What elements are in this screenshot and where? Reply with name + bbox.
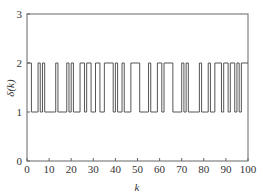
x-tick-label: 60: [154, 163, 166, 175]
y-tick-label: 0: [17, 155, 23, 167]
x-axis-label: k: [135, 181, 141, 193]
y-axis-label: δ(k): [4, 79, 17, 97]
y-axis-ticks: 0123: [17, 8, 31, 167]
y-tick-label: 3: [17, 8, 23, 20]
step-chart: 0102030405060708090100 0123 k δ(k): [0, 0, 263, 195]
x-tick-label: 10: [44, 163, 56, 175]
x-tick-label: 40: [110, 163, 122, 175]
y-tick-label: 1: [17, 106, 23, 118]
x-tick-label: 0: [24, 163, 30, 175]
y-tick-label: 2: [17, 57, 23, 69]
x-tick-label: 50: [132, 163, 144, 175]
x-tick-label: 80: [198, 163, 210, 175]
series-delta-k: [27, 63, 248, 112]
x-tick-label: 70: [176, 163, 188, 175]
x-tick-label: 90: [220, 163, 232, 175]
x-tick-label: 20: [66, 163, 78, 175]
x-tick-label: 100: [240, 163, 257, 175]
x-tick-label: 30: [88, 163, 100, 175]
